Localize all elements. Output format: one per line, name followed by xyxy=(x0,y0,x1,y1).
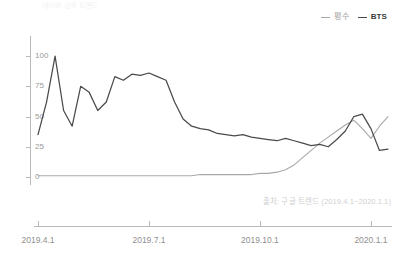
chart-plot-area: 0255075100 2019.4.12019.7.12019.10.12020… xyxy=(0,0,395,258)
x-tick-label: 2019.4.1 xyxy=(21,235,54,245)
x-tick-label: 2019.10.1 xyxy=(241,235,279,245)
y-tick-label: 100 xyxy=(35,51,49,60)
chart-container: 네이버 검색 트렌드 평수 BTS 0255075100 2019.4.1201… xyxy=(0,0,395,258)
line-series-average xyxy=(38,117,388,176)
source-note: 출처: 구글 트렌드 (2019.4.1~2020.1.1) xyxy=(263,195,391,206)
y-tick-label: 25 xyxy=(35,142,44,151)
y-axis-ticks: 0255075100 xyxy=(26,51,49,181)
x-tick-label: 2020.1.1 xyxy=(354,235,387,245)
y-axis: 0255075100 xyxy=(26,36,49,185)
x-tick-label: 2019.7.1 xyxy=(132,235,165,245)
x-axis-ticks: 2019.4.12019.7.12019.10.12020.1.1 xyxy=(21,221,387,245)
x-axis: 2019.4.12019.7.12019.10.12020.1.1 xyxy=(21,221,392,245)
y-tick-label: 0 xyxy=(35,172,40,181)
series-group xyxy=(38,56,388,176)
y-tick-label: 75 xyxy=(35,81,44,90)
line-series-bts xyxy=(38,56,388,150)
